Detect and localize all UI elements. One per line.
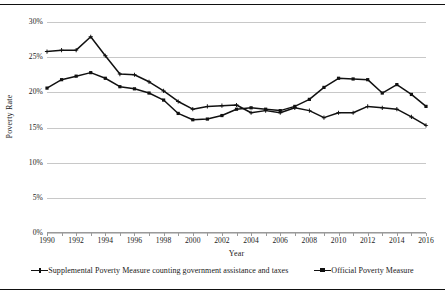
data-point-marker	[249, 106, 252, 109]
data-point-marker	[336, 111, 340, 115]
legend-cross-marker-icon	[31, 266, 48, 275]
data-series-layer	[47, 22, 426, 233]
series-official-poverty-measure	[45, 71, 427, 121]
data-point-marker	[147, 91, 150, 94]
y-tick-label-30pct: 30%	[3, 18, 43, 26]
poverty-rate-line-chart-figure: 0%5%10%15%20%25%30% Poverty Rate 1990199…	[0, 0, 445, 296]
legend-item-official-poverty-measure[interactable]: Official Poverty Measure	[314, 266, 413, 275]
figure-top-border	[0, 4, 445, 5]
y-axis-title: Poverty Rate	[5, 82, 14, 152]
data-point-marker	[381, 91, 384, 94]
data-point-marker	[279, 109, 282, 112]
chart-legend: Supplemental Poverty Measure counting go…	[0, 266, 445, 275]
data-point-marker	[410, 93, 413, 96]
data-point-marker	[220, 104, 224, 108]
data-point-marker	[293, 105, 296, 108]
y-tick-label-5pct: 5%	[3, 194, 43, 202]
legend-label-official: Official Poverty Measure	[331, 266, 413, 275]
legend-label-supplemental: Supplemental Poverty Measure counting go…	[48, 266, 288, 275]
data-point-marker	[351, 111, 355, 115]
data-point-marker	[308, 98, 311, 101]
data-point-marker	[366, 104, 370, 108]
data-point-marker	[205, 104, 209, 108]
data-point-marker	[162, 98, 165, 101]
data-point-marker	[366, 78, 369, 81]
data-point-marker	[60, 78, 63, 81]
data-point-marker	[104, 77, 107, 80]
data-point-marker	[133, 87, 136, 90]
data-point-marker	[322, 86, 325, 89]
data-point-marker	[59, 48, 63, 52]
data-point-marker	[177, 112, 180, 115]
legend-item-supplemental-poverty-measure[interactable]: Supplemental Poverty Measure counting go…	[31, 266, 288, 275]
data-point-marker	[45, 49, 49, 53]
plot-area	[47, 22, 426, 233]
data-point-marker	[45, 87, 48, 90]
data-point-marker	[220, 114, 223, 117]
data-point-marker	[424, 105, 427, 108]
data-point-marker	[75, 75, 78, 78]
data-point-marker	[352, 77, 355, 80]
y-tick-label-10pct: 10%	[3, 159, 43, 167]
data-point-marker	[264, 108, 267, 111]
data-point-marker	[235, 108, 238, 111]
data-point-marker	[395, 83, 398, 86]
series-supplemental-poverty-measure	[45, 35, 428, 128]
figure-bottom-border	[0, 289, 445, 290]
data-point-marker	[118, 85, 121, 88]
x-axis-title: Year	[47, 249, 426, 258]
data-point-marker	[89, 71, 92, 74]
y-tick-label-25pct: 25%	[3, 53, 43, 61]
legend-square-marker-icon	[314, 266, 331, 275]
data-point-marker	[337, 77, 340, 80]
data-point-marker	[206, 117, 209, 120]
x-tick-label-2016: 2016	[406, 236, 445, 245]
data-point-marker	[191, 118, 194, 121]
x-axis-tick-labels: 1990199219941996199820002002200420062008…	[47, 236, 426, 248]
data-point-marker	[380, 106, 384, 110]
